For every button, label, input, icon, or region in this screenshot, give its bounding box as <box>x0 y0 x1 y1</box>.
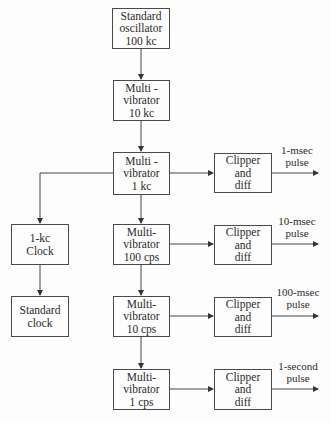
clipper-diff-block-2: Clipper and diff <box>214 225 272 265</box>
block-diagram: Standard oscillator 100 kc Multi - vibra… <box>0 0 331 423</box>
standard-oscillator-block: Standard oscillator 100 kc <box>112 8 170 49</box>
clipper-diff-block-4: Clipper and diff <box>214 369 272 410</box>
clipper-diff-block-3: Clipper and diff <box>214 297 272 337</box>
multivibrator-1kc-block: Multi - vibrator 1 kc <box>113 152 170 195</box>
multivibrator-10cps-block: Multi- vibrator 10 cps <box>113 296 170 337</box>
output-label-1second: 1-second pulse <box>270 360 326 384</box>
multivibrator-1cps-block: Multi- vibrator 1 cps <box>113 369 170 410</box>
output-label-10msec: 10-msec pulse <box>272 215 322 239</box>
multivibrator-100cps-block: Multi- vibrator 100 cps <box>113 224 170 265</box>
standard-clock-block: Standard clock <box>11 296 69 337</box>
multivibrator-10kc-block: Multi - vibrator 10 kc <box>113 80 170 121</box>
clipper-diff-block-1: Clipper and diff <box>214 153 272 193</box>
output-label-1msec: 1-msec pulse <box>272 144 322 168</box>
output-label-100msec: 100-msec pulse <box>270 286 326 310</box>
clock-1kc-block: 1-kc Clock <box>11 224 69 265</box>
